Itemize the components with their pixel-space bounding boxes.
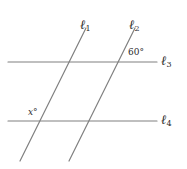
- diagram-line-art: [0, 0, 187, 169]
- line-label-l3: ℓ3: [161, 54, 172, 69]
- line-label-l1: ℓ1: [80, 18, 91, 33]
- line-l1: [20, 28, 86, 161]
- line-label-l4-subscript: 4: [166, 119, 171, 128]
- line-label-l4: ℓ4: [161, 113, 172, 128]
- line-label-l2: ℓ2: [129, 18, 140, 33]
- angle-label-x: x°: [28, 108, 38, 117]
- line-label-l1-subscript: 1: [85, 24, 90, 33]
- line-label-l3-subscript: 3: [166, 60, 171, 69]
- line-l2: [69, 28, 135, 161]
- geometry-diagram: ℓ1 ℓ2 ℓ3 ℓ4 60° x°: [0, 0, 187, 169]
- line-label-l2-subscript: 2: [134, 24, 139, 33]
- angle-label-60: 60°: [128, 48, 144, 57]
